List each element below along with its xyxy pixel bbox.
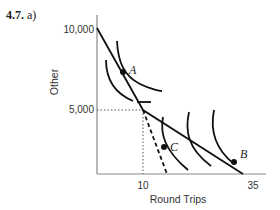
y-axis-label: Other	[48, 68, 60, 95]
point-c	[161, 144, 167, 150]
point-c-label: C	[170, 140, 179, 154]
indifference-curve-1	[117, 41, 162, 91]
point-a	[120, 69, 126, 75]
x-tick-35: 35	[247, 180, 259, 191]
problem-part: a)	[27, 8, 36, 22]
figure: 4.7. a) 10,000 5,000 10 35 Round Trips O…	[0, 0, 280, 210]
y-tick-5000: 5,000	[69, 104, 94, 115]
indifference-diagram: 10,000 5,000 10 35 Round Trips Other A C…	[0, 0, 280, 210]
y-tick-10000: 10,000	[63, 24, 94, 35]
point-a-label: A	[128, 63, 137, 77]
problem-label: 4.7. a)	[6, 8, 36, 23]
point-b-label: B	[240, 147, 248, 161]
problem-number: 4.7.	[6, 8, 24, 22]
point-b	[231, 159, 237, 165]
x-tick-10: 10	[137, 180, 149, 191]
x-axis-label: Round Trips	[150, 193, 207, 205]
indifference-curve-4	[187, 112, 211, 166]
